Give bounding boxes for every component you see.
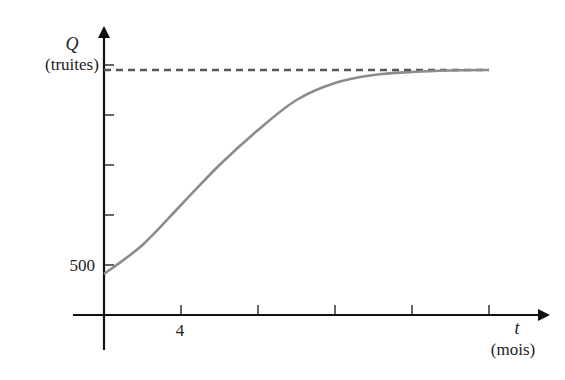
x-axis-unit: (mois)	[491, 340, 535, 359]
x-ticks	[181, 305, 489, 315]
y-ticks	[104, 65, 114, 265]
y-axis-symbol: Q	[66, 34, 79, 54]
x-axis-symbol: t	[514, 318, 520, 338]
logistic-chart: Q (truites) 500 4 t (mois)	[0, 0, 565, 380]
y-tick-label-500: 500	[70, 256, 96, 275]
y-axis-unit: (truites)	[45, 55, 99, 74]
x-tick-label-4: 4	[176, 321, 185, 340]
logistic-curve	[104, 70, 489, 274]
